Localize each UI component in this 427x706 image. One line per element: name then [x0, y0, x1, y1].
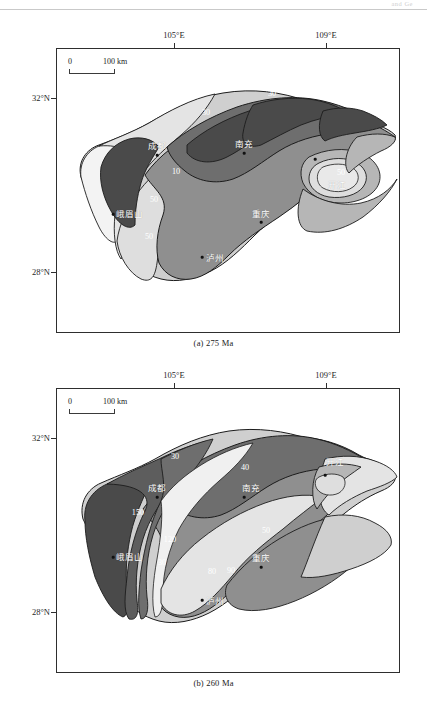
city-dot-a-5	[314, 158, 317, 161]
lon-label-b-1: 109°E	[315, 370, 336, 380]
city-dot-b-2	[260, 566, 263, 569]
map-drawing-a	[57, 49, 399, 332]
map-drawing-b	[57, 389, 399, 672]
lon-label-a-1: 109°E	[315, 30, 336, 40]
scalebar-max-label-a: 100 km	[103, 57, 127, 66]
page-header-rule	[0, 9, 427, 10]
lat-label-a-0: 32°N	[16, 93, 50, 103]
city-dot-b-1	[243, 496, 246, 499]
city-dot-a-2	[260, 221, 263, 224]
city-dot-b-3	[201, 599, 204, 602]
lat-label-b-0: 32°N	[16, 433, 50, 443]
city-dot-a-4	[112, 213, 115, 216]
scalebar-bar-a	[69, 69, 115, 74]
map-frame-a: 0 100 km 30 30 20 30 10 50 50 50 成都 南充 重…	[56, 48, 400, 333]
running-header: and Ge	[391, 0, 413, 7]
lon-label-b-0: 105°E	[163, 370, 184, 380]
lon-label-a-0: 105°E	[163, 30, 184, 40]
caption-panel-b: (b) 260 Ma	[0, 678, 427, 688]
scalebar-zero-label-b: 0	[68, 397, 72, 406]
figure-panel-a: 105°E 109°E 32°N 28°N	[0, 30, 427, 365]
figure-panel-b: 105°E 109°E 32°N 28°N	[0, 370, 427, 706]
city-dot-b-0	[156, 496, 159, 499]
lat-label-a-1: 28°N	[16, 267, 50, 277]
scalebar-zero-label-a: 0	[68, 57, 72, 66]
scalebar-max-label-b: 100 km	[103, 397, 127, 406]
caption-panel-a: (a) 275 Ma	[0, 338, 427, 348]
city-dot-a-3	[201, 256, 204, 259]
lat-label-b-1: 28°N	[16, 607, 50, 617]
map-frame-b: 0 100 km 30 40 50 150 120 30 80 90 成都 南充…	[56, 388, 400, 673]
city-dot-b-4	[112, 556, 115, 559]
city-dot-a-1	[243, 152, 246, 155]
scalebar-bar-b	[69, 409, 115, 414]
city-dot-b-5	[324, 474, 327, 477]
city-dot-a-0	[156, 154, 159, 157]
